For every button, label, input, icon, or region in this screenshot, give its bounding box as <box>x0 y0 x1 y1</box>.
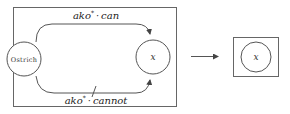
diagram-canvas: Ostrich x ako*·can ako*·cannot x <box>0 0 290 114</box>
node-x-right-label: x <box>253 52 258 62</box>
edge-top-label: ako*·can <box>73 9 119 21</box>
edge-bottom-cannot <box>36 76 150 93</box>
edge-top-can <box>36 24 150 42</box>
node-x-right: x <box>241 42 271 72</box>
node-x-left: x <box>136 40 170 74</box>
edge-bottom-label: ako*·cannot <box>65 94 129 106</box>
node-x-left-label: x <box>150 52 155 62</box>
node-ostrich-label: Ostrich <box>11 56 37 64</box>
node-ostrich: Ostrich <box>7 42 41 76</box>
